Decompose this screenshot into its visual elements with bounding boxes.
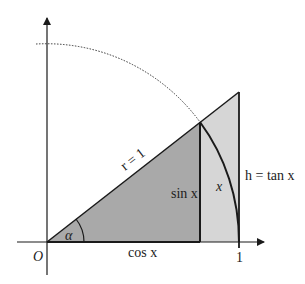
sine-label: sin x (171, 186, 198, 201)
unit-circle-arc-dotted (36, 44, 200, 122)
arc-label: x (215, 179, 223, 194)
angle-label: α (65, 228, 73, 243)
origin-label: O (33, 249, 43, 264)
cosine-label: cos x (128, 245, 157, 260)
unit-circle-diagram: O 1 α cos x sin x x h = tan x r = 1 (0, 0, 305, 284)
tangent-label: h = tan x (245, 168, 295, 183)
unit-tick-label: 1 (236, 250, 243, 265)
